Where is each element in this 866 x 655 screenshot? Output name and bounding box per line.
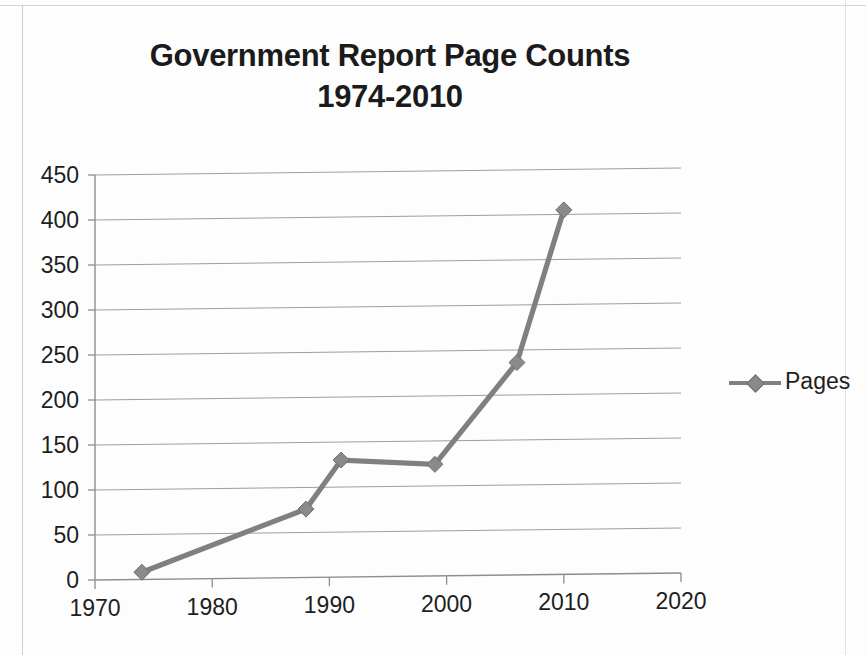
y-tick-label-50: 50	[53, 522, 79, 548]
data-point-marker	[556, 202, 572, 218]
y-tick-label-250: 250	[41, 342, 79, 368]
y-tick-label-0: 0	[66, 567, 79, 593]
scanned-page: Government Report Page Counts 1974-2010 …	[0, 0, 866, 655]
y-tick-label-150: 150	[41, 432, 79, 458]
line-chart: 050100150200250300350400450 197019801990…	[0, 0, 866, 655]
x-tick-label-1970: 1970	[69, 595, 120, 621]
y-tick-label-400: 400	[41, 207, 79, 233]
plot-area: 050100150200250300350400450 197019801990…	[0, 0, 866, 655]
y-tick-label-450: 450	[41, 162, 79, 188]
legend-label-pages: Pages	[785, 368, 850, 395]
axis-ticks	[88, 175, 681, 589]
series-line-pages	[142, 210, 564, 572]
chart-legend: Pages	[729, 368, 850, 395]
x-tick-label-1980: 1980	[187, 594, 238, 620]
data-point-marker	[134, 564, 150, 580]
y-axis-labels: 050100150200250300350400450	[41, 162, 79, 593]
series-pages	[134, 202, 572, 580]
y-tick-label-100: 100	[41, 477, 79, 503]
y-tick-label-200: 200	[41, 387, 79, 413]
x-axis-labels: 197019801990200020102020	[69, 588, 706, 621]
gridlines	[95, 168, 681, 535]
x-tick-label-2020: 2020	[655, 588, 706, 614]
x-tick-label-2000: 2000	[421, 591, 472, 617]
y-tick-label-350: 350	[41, 252, 79, 278]
x-tick-label-2010: 2010	[538, 589, 589, 615]
axis-lines	[95, 175, 681, 580]
y-tick-label-300: 300	[41, 297, 79, 323]
x-tick-label-1990: 1990	[304, 592, 355, 618]
legend-diamond-icon	[746, 374, 764, 392]
legend-marker-icon	[729, 374, 781, 390]
